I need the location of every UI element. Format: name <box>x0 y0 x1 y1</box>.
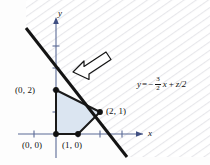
point-label-0-0: (0, 0) <box>22 140 42 150</box>
objective-equation: y = − 3 2 x + z/2 <box>137 76 186 92</box>
vertex-1-0 <box>75 131 81 137</box>
equation-plus-sign: + <box>169 79 174 89</box>
x-axis-label: x <box>148 128 152 138</box>
vertex-0-2 <box>53 87 59 93</box>
point-label-0-2: (0, 2) <box>15 85 35 95</box>
vertex-2-1 <box>97 109 103 115</box>
equation-fraction: 3 2 <box>155 76 161 92</box>
point-label-1-0: (1, 0) <box>62 140 82 150</box>
linear-programming-figure: (0, 2) (0, 0) (1, 0) (2, 1) x y y = − 3 … <box>0 0 210 165</box>
equation-minus-sign: − <box>148 79 153 89</box>
y-axis-label: y <box>58 8 62 18</box>
equation-equals: = <box>142 79 147 89</box>
equation-term-x: x <box>163 79 167 89</box>
vertex-0-0 <box>53 131 59 137</box>
fraction-numerator: 3 <box>155 76 161 83</box>
equation-term-z: z/2 <box>176 79 187 89</box>
equation-lhs: y <box>137 79 141 89</box>
fraction-denominator: 2 <box>155 85 161 92</box>
point-label-2-1: (2, 1) <box>106 106 126 116</box>
